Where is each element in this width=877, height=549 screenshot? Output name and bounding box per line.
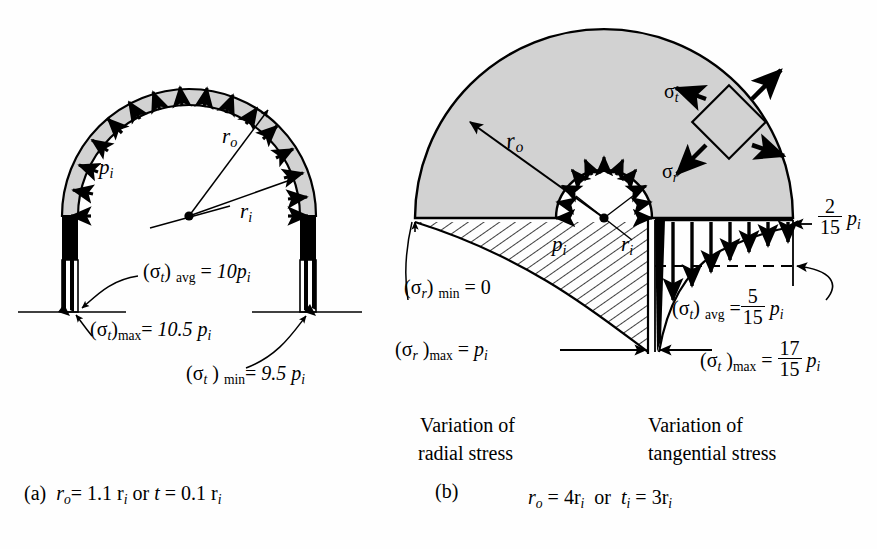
- caption-b-expr: ro = 4ri or ti = 3ri: [528, 486, 672, 512]
- sigma-t-max-label-a: (σt)max= 10.5 pi: [90, 318, 211, 344]
- sigma-r-element-label: σr: [662, 160, 678, 186]
- sigma-tip-a1: [58, 304, 70, 316]
- sigma-bar-a2: [70, 260, 74, 312]
- leader-sigma-avg-a: [82, 276, 138, 308]
- tangential-outer-value-label: 215 pi: [818, 196, 861, 238]
- figure-canvas: pi ro ri (σt) avg = 10pi (σt)max= 10.5 p…: [0, 0, 877, 549]
- radius-inner-line-b: [604, 186, 646, 218]
- sigma-bar-a3: [304, 260, 308, 312]
- tangential-plot-title-line2: tangential stress: [648, 442, 776, 465]
- leader-tangential-avg: [797, 266, 833, 300]
- center-point-a: [184, 211, 193, 220]
- sigma-t-min-label-a: (σt ) min= 9.5 pi: [186, 362, 305, 388]
- radius-outer-label-a: ro: [222, 124, 237, 151]
- leader-sigma-min-a: [246, 316, 306, 368]
- ring-wall-a: [62, 89, 316, 216]
- tangential-plot-title-line1: Variation of: [648, 414, 743, 437]
- radial-plot-title-line1: Variation of: [420, 414, 515, 437]
- radius-outer-label-b: ro: [505, 127, 525, 157]
- pressure-label-b: pi: [552, 232, 566, 259]
- sigma-bar-a4: [312, 260, 316, 310]
- center-point-b: [599, 213, 608, 222]
- caption-b-tag: (b): [435, 480, 458, 503]
- pressure-label-a: pi: [99, 155, 113, 182]
- radial-plot-title-line2: radial stress: [418, 442, 513, 465]
- radius-inner-label-b: ri: [621, 232, 633, 259]
- sigma-t-max-label-b: (σt )max = 1715 pi: [700, 338, 820, 380]
- sigma-t-element-label: σt: [664, 80, 679, 106]
- sigma-r-min-label: (σr) min = 0: [404, 276, 491, 302]
- diagram-svg: [0, 0, 877, 549]
- caption-a: (a) ro= 1.1 ri or t = 0.1 ri: [24, 482, 222, 508]
- sigma-t-avg-label-a: (σt) avg = 10pi: [143, 260, 251, 286]
- pressure-arrows-a: [71, 87, 308, 216]
- wall-stub-left-a: [62, 216, 78, 260]
- sigma-r-max-label: (σr )max = pi: [395, 338, 488, 364]
- sigma-t-avg-label-b: (σt) avg =515 pi: [672, 286, 784, 328]
- radius-inner-label-a: ri: [240, 199, 252, 226]
- wall-stub-right-a: [300, 216, 316, 260]
